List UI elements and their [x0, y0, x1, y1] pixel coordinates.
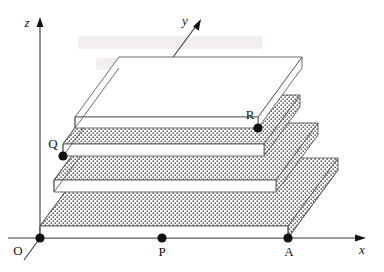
point-O: O: [13, 233, 44, 258]
axis-label-x: x: [358, 242, 365, 257]
point-label-A: A: [284, 244, 294, 259]
point-label-P: P: [158, 244, 165, 259]
point-label-R: R: [246, 107, 255, 122]
figure-root: O P A Q R z y x: [0, 0, 384, 272]
point-A: A: [283, 233, 294, 259]
point-P: P: [157, 233, 166, 259]
axis-label-y: y: [180, 13, 188, 28]
axis-z: [37, 17, 44, 238]
geometry-diagram: O P A Q R z y x: [0, 0, 384, 272]
axis-label-z: z: [23, 15, 29, 30]
point-label-Q: Q: [48, 136, 58, 151]
point-label-O: O: [13, 243, 22, 258]
